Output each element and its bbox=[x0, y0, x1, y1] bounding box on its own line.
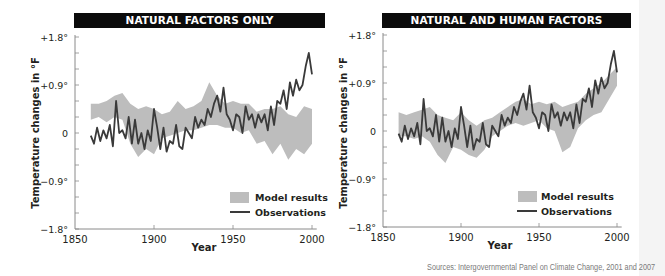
source-citation: Sources: Intergovernmental Panel on Clim… bbox=[427, 262, 655, 272]
y-tick-label: −1.8° bbox=[40, 224, 68, 235]
y-tick-label: −0.9° bbox=[348, 174, 376, 185]
x-tick-label: 1850 bbox=[370, 232, 395, 243]
x-tick-label: 1900 bbox=[141, 234, 166, 245]
legend-model-swatch bbox=[518, 191, 537, 202]
y-tick-label: 0 bbox=[370, 126, 376, 137]
legend-obs-label: Observations bbox=[541, 206, 612, 217]
x-tick-label: 1950 bbox=[526, 232, 551, 243]
y-tick-label: +0.9° bbox=[348, 78, 376, 89]
chart-natural-and-human-factors: NATURAL AND HUMAN FACTORS Model results … bbox=[308, 0, 638, 260]
y-tick-label: 0 bbox=[62, 128, 68, 139]
x-tick-label: 1950 bbox=[220, 234, 245, 245]
x-tick-label: 1900 bbox=[448, 232, 473, 243]
chart-natural-factors: NATURAL FACTORS ONLY Model results Obser… bbox=[0, 0, 330, 260]
x-tick-label: 1850 bbox=[62, 234, 87, 245]
plot-area: Model results Observations Temperature c… bbox=[308, 0, 638, 260]
page-margin bbox=[639, 0, 665, 276]
legend-model-label: Model results bbox=[541, 191, 614, 202]
y-tick-label: −0.9° bbox=[40, 176, 68, 187]
y-tick-label: +0.9° bbox=[40, 80, 68, 91]
plot-area: Model results Observations Temperature c… bbox=[0, 0, 330, 260]
x-axis-label: Year bbox=[191, 242, 217, 253]
model-results-band bbox=[399, 67, 617, 163]
x-axis-label: Year bbox=[487, 240, 513, 251]
x-tick-label: 2000 bbox=[604, 232, 629, 243]
legend-model-swatch bbox=[230, 192, 249, 203]
y-tick-label: −1.8° bbox=[348, 222, 376, 233]
y-tick-label: +1.8° bbox=[40, 32, 68, 43]
y-tick-label: +1.8° bbox=[348, 30, 376, 41]
